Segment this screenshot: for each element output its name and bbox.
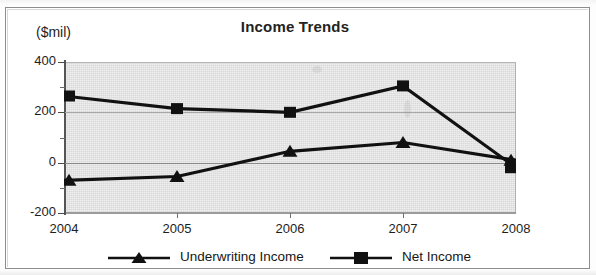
- legend-label-underwriting-income: Underwriting Income: [180, 249, 304, 264]
- x-axis-tick-label: 2007: [373, 221, 433, 236]
- series-net-income: [64, 80, 516, 173]
- chart-title: Income Trends: [170, 18, 420, 35]
- data-point-marker: [284, 107, 296, 118]
- y-axis-tick-label: 200: [12, 103, 56, 118]
- series-plot: [64, 62, 516, 213]
- triangle-marker-icon: [108, 250, 170, 266]
- x-axis-tick: [290, 213, 291, 218]
- data-point-marker: [505, 162, 516, 173]
- y-axis-tick-label: 0: [12, 154, 56, 169]
- x-axis-tick: [177, 213, 178, 218]
- chart-legend: Underwriting Income Net Income: [0, 248, 596, 270]
- square-marker-icon: [330, 250, 392, 266]
- page-edge-top: [0, 0, 596, 6]
- y-axis-tick-label: -200: [12, 204, 56, 219]
- data-point-marker: [397, 80, 409, 91]
- data-point-marker: [171, 103, 183, 114]
- x-axis-tick-label: 2008: [486, 221, 546, 236]
- legend-label-net-income: Net Income: [402, 249, 471, 264]
- x-axis-tick: [403, 213, 404, 218]
- series-underwriting-income: [64, 136, 516, 186]
- y-axis-tick-label: 400: [12, 53, 56, 68]
- x-axis-tick-label: 2006: [260, 221, 320, 236]
- y-axis-tick: [58, 213, 65, 214]
- x-axis-tick-label: 2004: [34, 221, 94, 236]
- x-axis-tick-label: 2005: [147, 221, 207, 236]
- chart-figure: Income Trends ($mil) 4002000-200 2004200…: [0, 0, 596, 275]
- data-point-marker: [64, 91, 75, 102]
